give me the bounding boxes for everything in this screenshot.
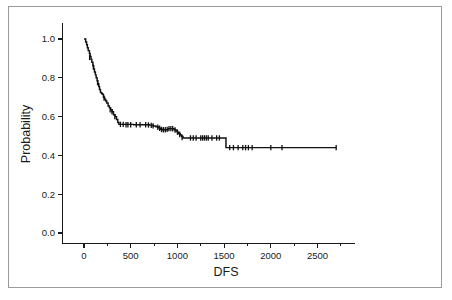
x-tick-label-2500: 2500 (307, 250, 328, 261)
y-tick-label-0.4: 0.4 (42, 150, 55, 161)
tick-marks-group (58, 39, 341, 248)
kaplan-meier-chart: 0.00.20.40.60.81.005001000150020002500 (0, 0, 452, 300)
y-tick-label-0.6: 0.6 (42, 111, 55, 122)
x-tick-label-1500: 1500 (214, 250, 235, 261)
x-tick-label-1000: 1000 (167, 250, 188, 261)
x-tick-label-2000: 2000 (260, 250, 281, 261)
x-tick-label-500: 500 (123, 250, 139, 261)
survival-curve-group (84, 39, 336, 148)
y-tick-label-0.8: 0.8 (42, 72, 55, 83)
figure-container: 0.00.20.40.60.81.005001000150020002500 D… (0, 0, 452, 300)
y-tick-label-0.0: 0.0 (42, 227, 55, 238)
axes-group (63, 23, 355, 243)
plot-area: 0.00.20.40.60.81.005001000150020002500 D… (0, 0, 452, 300)
y-tick-label-1.0: 1.0 (42, 33, 55, 44)
survival-curve-0 (84, 39, 336, 148)
censor-marks-group (90, 55, 337, 151)
y-tick-label-0.2: 0.2 (42, 189, 55, 200)
x-tick-label-0: 0 (81, 250, 86, 261)
